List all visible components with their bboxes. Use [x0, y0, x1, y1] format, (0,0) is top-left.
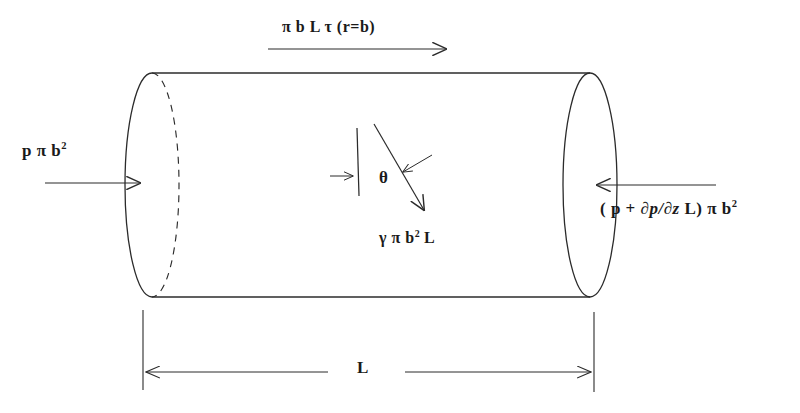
- theta-angle-label: θ: [379, 168, 388, 188]
- weight-force-label: γ π b2 L: [379, 228, 435, 247]
- cylinder-body: [125, 73, 617, 297]
- left-pressure-force-label: p π b2: [22, 140, 67, 161]
- right-pressure-force-prefix: ( p +: [600, 199, 641, 218]
- right-pressure-force-label: ( p + ∂p/∂z L) π b2: [600, 198, 737, 219]
- cylinder-left-cap-visible: [125, 73, 152, 297]
- top-shear-force-label: π b L τ (r=b): [282, 18, 375, 36]
- length-dimension-label: L: [357, 358, 369, 378]
- weight-force-arrow: [374, 124, 424, 210]
- left-pressure-force-text: p π b: [22, 141, 61, 160]
- length-dimension: [143, 310, 594, 392]
- right-pressure-force-suffix: L) π b: [680, 199, 732, 218]
- right-pressure-force-derivative: ∂p/∂z: [641, 199, 680, 218]
- weight-force-text: γ π b: [379, 229, 415, 246]
- cylinder-left-cap-hidden: [152, 73, 179, 297]
- vertical-reference-line: [357, 128, 359, 196]
- diagram-canvas: π b L τ (r=b) p π b2 ( p + ∂p/∂z L) π b2…: [0, 0, 800, 413]
- right-pressure-force-exponent: 2: [732, 198, 737, 209]
- weight-force-suffix: L: [420, 229, 436, 246]
- theta-right-tick-arrow: [403, 155, 432, 172]
- left-pressure-force-exponent: 2: [61, 140, 66, 151]
